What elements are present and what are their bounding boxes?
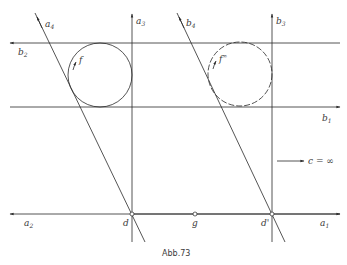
point-d-prime	[270, 212, 274, 216]
f-infinity-orientation-arrow-icon	[213, 61, 216, 69]
circle-f	[68, 43, 132, 107]
label-a2: a2	[24, 218, 33, 229]
b4-line	[177, 13, 285, 242]
figure-caption: Abb.73	[162, 249, 190, 258]
point-g	[193, 212, 197, 216]
label-d: d	[123, 218, 129, 228]
label-f: f	[78, 55, 84, 65]
label-b3: b3	[276, 16, 286, 27]
label-b2: b2	[18, 47, 28, 58]
f-orientation-arrow-icon	[73, 62, 76, 70]
label-b4: b4	[186, 18, 196, 29]
label-d-prime: d'	[261, 218, 269, 228]
label-a4: a4	[45, 19, 54, 30]
label-a3: a3	[136, 16, 145, 27]
label-c-infinity: c = ∞	[308, 156, 334, 166]
diagram-canvas: a4 b2 a3 f b4 b3 f∞ b1 c = ∞ a2 d g d' a…	[0, 0, 347, 265]
label-a1: a1	[320, 218, 329, 229]
point-d	[130, 212, 134, 216]
a4-arrow-icon	[37, 17, 42, 28]
b4-arrow-icon	[179, 17, 184, 28]
label-b1: b1	[322, 113, 332, 124]
label-f-infinity: f∞	[218, 52, 227, 64]
a4-line	[35, 13, 145, 242]
circle-f-infinity	[208, 42, 272, 106]
label-g: g	[192, 218, 198, 228]
